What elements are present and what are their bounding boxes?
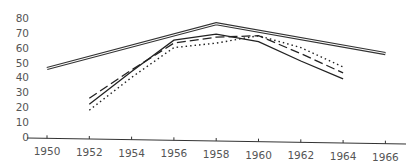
x-tick-label: 1960 [245, 149, 272, 161]
x-tick-label: 1966 [372, 151, 399, 163]
y-tick-label: 0 [22, 131, 29, 143]
y-tick-label: 70 [16, 27, 29, 39]
y-tick-label: 50 [16, 57, 29, 69]
x-axis [27, 135, 406, 144]
series-dashed [89, 36, 343, 99]
x-tick-label: 1956 [161, 147, 188, 159]
x-tick-label: 1964 [330, 150, 357, 162]
y-tick-label: 10 [16, 116, 29, 128]
y-tick-label: 60 [16, 42, 29, 54]
x-tick-label: 1958 [203, 148, 230, 160]
series-solid [89, 34, 343, 104]
x-tick-label: 1962 [287, 149, 314, 161]
y-tick-label: 40 [16, 71, 29, 83]
y-tick-label: 30 [16, 86, 29, 98]
line-chart: 01020304050607080 1950195219541956195819… [0, 0, 419, 166]
y-tick-label: 20 [16, 101, 29, 113]
y-axis-labels: 01020304050607080 [16, 12, 29, 143]
x-tick-label: 1950 [34, 145, 61, 157]
y-tick-label: 80 [16, 12, 29, 24]
series-double-line [47, 24, 385, 69]
series-lines [47, 24, 385, 110]
x-axis-labels: 195019521954195619581960196219641966 [34, 145, 399, 162]
x-tick-label: 1952 [76, 146, 103, 158]
x-tick-label: 1954 [118, 147, 145, 159]
